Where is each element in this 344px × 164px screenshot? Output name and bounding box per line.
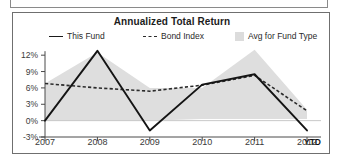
chart-screenshot: Annualized Total Return This Fund Bond I…	[0, 0, 344, 164]
clipped-top-panel	[10, 0, 328, 8]
chart-panel: Annualized Total Return This Fund Bond I…	[12, 12, 330, 154]
plot-area	[13, 13, 331, 155]
